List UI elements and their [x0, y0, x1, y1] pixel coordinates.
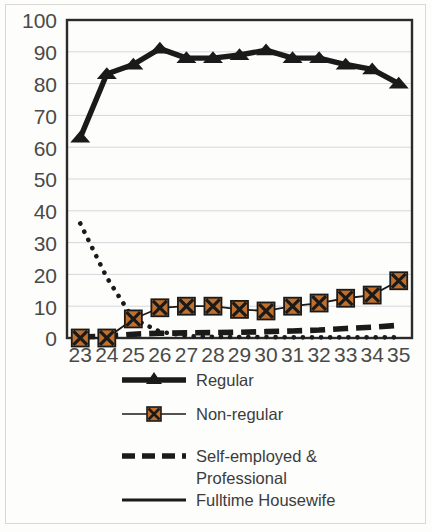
x-tick-28: 28	[201, 343, 224, 366]
chart-legend: Regular Non-regular Self-employed & Prof…	[122, 371, 335, 509]
x-tick-32: 32	[307, 343, 330, 366]
legend-label-regular: Regular	[196, 371, 254, 389]
y-tick-70: 70	[34, 105, 57, 128]
x-tick-24: 24	[95, 343, 119, 366]
marker-regular	[70, 131, 90, 143]
y-tick-20: 20	[34, 264, 57, 287]
x-tick-27: 27	[175, 343, 198, 366]
x-tick-31: 31	[281, 343, 304, 366]
legend-label-self-employed-line2: Professional	[196, 469, 287, 487]
x-axis-tick-labels: 23242526272829303132333435	[69, 343, 411, 366]
chart-page: 100 90 80 70 60 50 40 30 20 10 0 2324252…	[0, 0, 432, 532]
line-regular	[80, 49, 398, 138]
marker-regular	[150, 42, 170, 54]
y-tick-100: 100	[22, 9, 57, 32]
y-tick-0: 0	[45, 327, 57, 350]
x-tick-30: 30	[254, 343, 277, 366]
legend-entry-fulltime-housewife[interactable]: Fulltime Housewife	[122, 491, 335, 509]
x-tick-34: 34	[361, 343, 385, 366]
y-axis-tick-labels: 100 90 80 70 60 50 40 30 20 10 0	[22, 9, 57, 350]
series-regular	[70, 42, 408, 143]
x-tick-26: 26	[148, 343, 171, 366]
x-tick-35: 35	[387, 343, 410, 366]
x-tick-25: 25	[122, 343, 145, 366]
legend-swatch-non-regular-icon	[122, 407, 186, 421]
y-tick-40: 40	[34, 200, 57, 223]
legend-entry-self-employed-professional[interactable]: Self-employed & Professional	[122, 447, 317, 487]
x-tick-33: 33	[334, 343, 357, 366]
y-tick-50: 50	[34, 168, 57, 191]
x-tick-29: 29	[228, 343, 251, 366]
legend-entry-non-regular[interactable]: Non-regular	[122, 405, 284, 423]
y-tick-80: 80	[34, 73, 57, 96]
legend-label-self-employed-line1: Self-employed &	[196, 447, 317, 465]
y-tick-30: 30	[34, 232, 57, 255]
legend-entry-regular[interactable]: Regular	[122, 371, 254, 389]
y-tick-10: 10	[34, 296, 57, 319]
y-tick-60: 60	[34, 137, 57, 160]
legend-swatch-regular-icon	[122, 372, 186, 384]
horizontal-gridlines	[67, 20, 412, 306]
legend-label-fulltime-housewife: Fulltime Housewife	[196, 491, 335, 509]
legend-label-non-regular: Non-regular	[196, 405, 284, 423]
x-tick-23: 23	[69, 343, 92, 366]
line-chart-figure: 100 90 80 70 60 50 40 30 20 10 0 2324252…	[0, 0, 432, 532]
y-tick-90: 90	[34, 41, 57, 64]
